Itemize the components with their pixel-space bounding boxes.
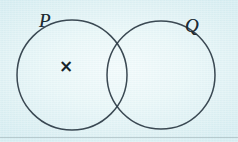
set-label-p: P xyxy=(39,11,51,30)
set-label-q: Q xyxy=(185,16,199,35)
cross-mark-icon: × xyxy=(59,58,73,75)
venn-diagram-figure: P Q × xyxy=(0,0,238,142)
circle-q xyxy=(107,21,215,129)
circle-group-q xyxy=(107,21,215,129)
venn-circles-canvas xyxy=(0,0,238,142)
